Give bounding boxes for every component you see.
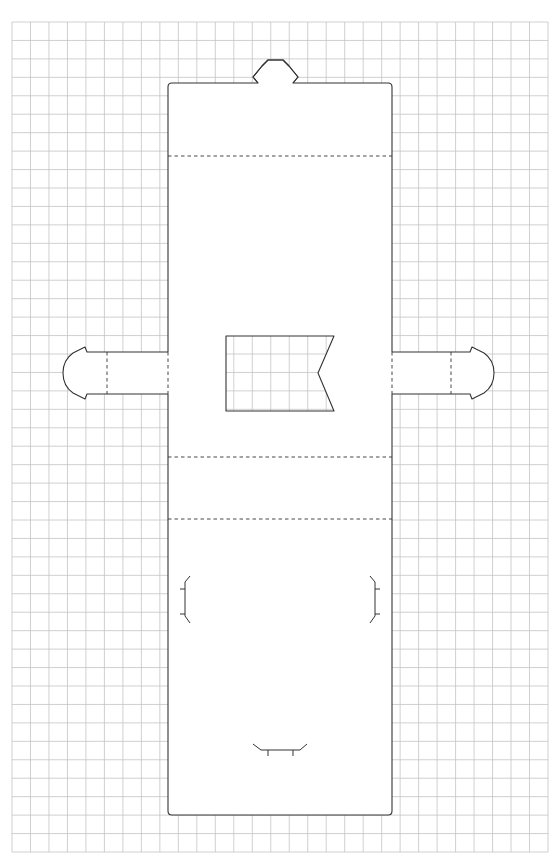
die-cut-shape xyxy=(63,60,494,815)
main-panel-fill xyxy=(168,60,392,815)
left-tab-fill xyxy=(63,347,168,399)
cutout-template-canvas xyxy=(0,0,558,858)
right-tab-fill xyxy=(392,347,494,399)
